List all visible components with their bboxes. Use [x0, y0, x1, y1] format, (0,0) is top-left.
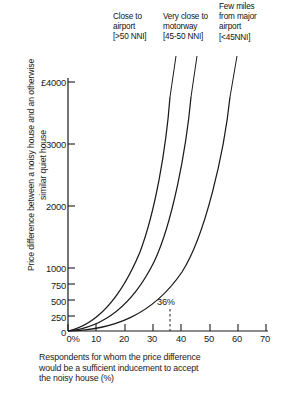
y-axis-ticks	[68, 82, 75, 316]
curve-few-miles-from-major-airport	[68, 97, 230, 331]
leader-line-close-to-airport	[170, 56, 176, 97]
chart-figure: Close to airport [>50 NNI] Very close to…	[0, 0, 286, 396]
curve-very-close-to-motorway	[68, 97, 191, 331]
legend-leader-lines	[170, 56, 237, 97]
plot-canvas	[0, 0, 286, 396]
leader-line-motorway	[191, 56, 197, 97]
curve-close-to-airport	[68, 97, 170, 331]
leader-line-few-miles	[230, 56, 237, 97]
